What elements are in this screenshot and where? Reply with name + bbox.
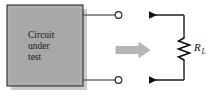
load-resistor-symbol [179, 38, 190, 60]
transition-arrow-icon [116, 43, 150, 58]
circuit-under-test-figure: Circuit under test R L [0, 0, 213, 100]
block-label-line-1: Circuit [28, 30, 55, 40]
block-label-line-3: test [28, 52, 42, 62]
current-arrow-bottom-icon [149, 76, 157, 84]
bottom-terminal-icon [115, 77, 122, 84]
block-label-line-2: under [28, 41, 50, 51]
current-arrow-top-icon [149, 11, 157, 19]
resistor-label-r: R [193, 41, 201, 53]
figure-canvas: Circuit under test R L [0, 0, 213, 100]
top-terminal-icon [115, 12, 122, 19]
resistor-label-subscript: L [201, 47, 206, 56]
